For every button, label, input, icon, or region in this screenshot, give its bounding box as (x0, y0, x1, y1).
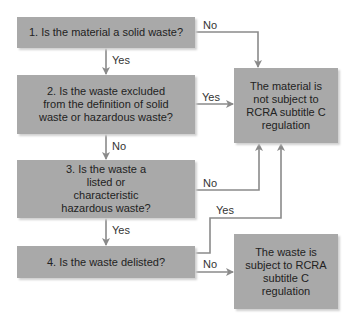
edge-label-q3-yes: Yes (112, 224, 130, 236)
outcome-not-subject-box: The material is not subject to RCRA subt… (234, 68, 338, 143)
edge-label-q1-yes: Yes (112, 54, 130, 66)
edge-label-q4-yes: Yes (216, 204, 234, 216)
outcome-subject-box: The waste is subject to RCRA subtitle C … (234, 234, 338, 309)
flowchart: 1. Is the material a solid waste? 2. Is … (0, 0, 353, 325)
question-3-box: 3. Is the waste a listed or characterist… (17, 160, 195, 218)
edge-label-q4-no: No (203, 258, 217, 270)
question-3-text: 3. Is the waste a listed or characterist… (57, 163, 155, 215)
question-2-text: 2. Is the waste excluded from the defini… (39, 85, 173, 124)
edge-label-q2-no: No (112, 140, 126, 152)
question-4-text: 4. Is the waste delisted? (47, 256, 165, 269)
question-1-box: 1. Is the material a solid waste? (17, 17, 195, 48)
edge-label-q1-no: No (203, 19, 217, 31)
question-4-box: 4. Is the waste delisted? (17, 246, 195, 278)
edge-label-q2-yes: Yes (202, 91, 220, 103)
question-1-text: 1. Is the material a solid waste? (29, 26, 183, 39)
question-2-box: 2. Is the waste excluded from the defini… (17, 75, 195, 134)
outcome-subject-text: The waste is subject to RCRA subtitle C … (244, 246, 328, 298)
outcome-not-subject-text: The material is not subject to RCRA subt… (246, 80, 326, 132)
edge-label-q3-no: No (203, 177, 217, 189)
